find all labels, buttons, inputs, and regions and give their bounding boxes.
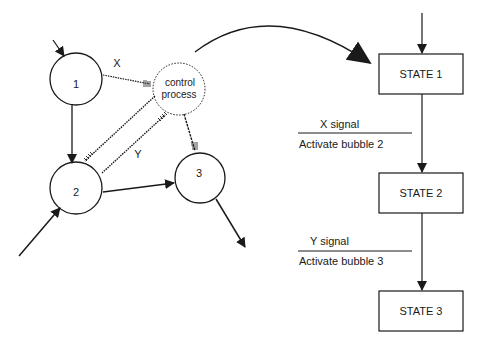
bubble-3-label: 3 (196, 167, 202, 179)
state-2-box: STATE 2 (379, 173, 463, 213)
state-2-label: STATE 2 (400, 187, 443, 199)
state-1-box: STATE 1 (379, 54, 463, 94)
state-3-label: STATE 3 (400, 305, 443, 317)
control-process-label-2: process (161, 89, 196, 100)
input-arrow-2 (19, 208, 60, 256)
flow-label-x: X (113, 57, 121, 69)
bubble-3: 3 (175, 153, 225, 203)
transition-2: Y signal Activate bubble 3 (298, 235, 412, 267)
transition-2-action: Activate bubble 3 (299, 255, 383, 267)
input-arrow-1 (53, 40, 64, 56)
control-flow-to-2 (84, 96, 155, 161)
transition-2-condition: Y signal (310, 235, 349, 247)
flow-arrow-2-to-3 (103, 183, 174, 192)
data-flow-diagram: 1 2 3 control process X (19, 40, 245, 256)
transition-1-condition: X signal (320, 118, 359, 130)
bubble-2: 2 (50, 162, 102, 214)
state-3-box: STATE 3 (379, 291, 463, 331)
control-flow-x: X (103, 57, 150, 87)
bubble-1-label: 1 (73, 78, 79, 90)
state-transition-diagram: STATE 1 X signal Activate bubble 2 STATE… (298, 13, 463, 331)
transition-1: X signal Activate bubble 2 (298, 118, 412, 150)
diagram-canvas: 1 2 3 control process X (0, 0, 481, 347)
control-process-bubble: control process (153, 63, 205, 115)
flow-label-y: Y (134, 148, 142, 160)
output-arrow-3 (216, 199, 245, 247)
bubble-1: 1 (50, 53, 102, 105)
mapping-arrow (195, 26, 370, 63)
bubble-2-label: 2 (73, 186, 79, 198)
control-flow-to-3 (184, 114, 198, 151)
state-1-label: STATE 1 (400, 68, 443, 80)
control-process-label-1: control (165, 77, 195, 88)
control-flow-y: Y (102, 112, 167, 173)
transition-1-action: Activate bubble 2 (299, 138, 383, 150)
